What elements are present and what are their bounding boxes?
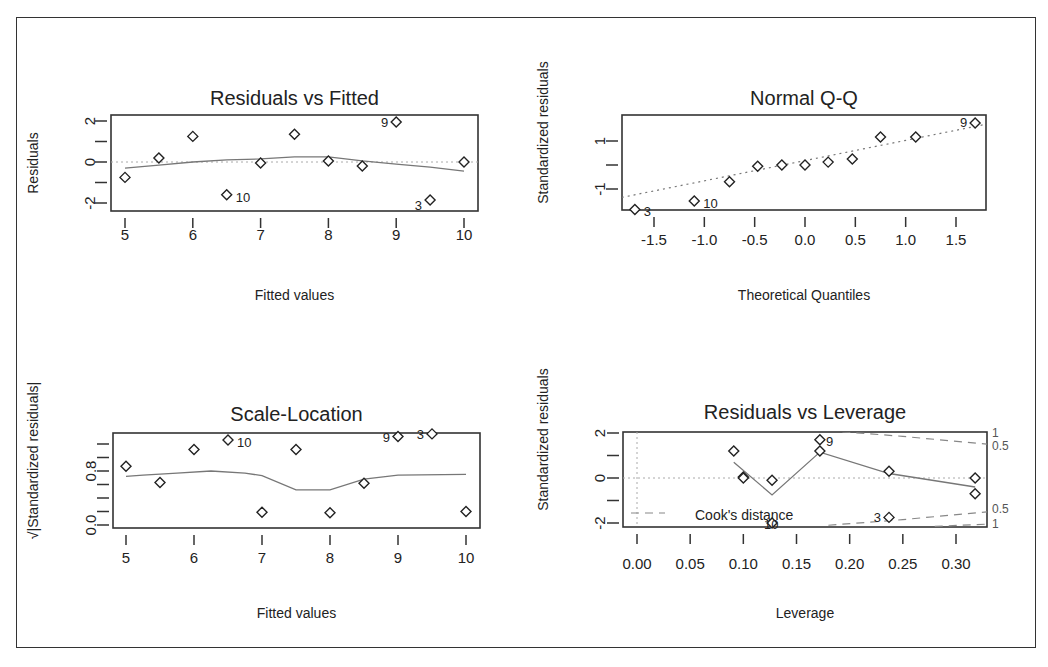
residuals-vs-leverage-panel: Residuals vs LeverageLeverageStandardize… [535,368,1009,621]
y-axis-label: √|Standardized residuals| [25,382,41,539]
data-point [223,435,233,445]
data-points: 1093 [121,427,471,518]
cooks-contour-label: 0.5 [992,439,1009,453]
data-point [357,161,367,171]
x-tick-label: 1.0 [895,231,916,248]
data-point [155,477,165,487]
data-point [729,446,739,456]
x-tick-label: 10 [456,226,473,243]
point-label: 9 [960,115,967,130]
x-tick-label: 1.5 [946,231,967,248]
y-tick-label: 0.8 [82,461,99,482]
y-tick-label: 0 [81,158,98,166]
normal-qq-panel: Normal Q-QTheoretical QuantilesStandardi… [535,61,986,303]
data-point [425,195,435,205]
smooth-line [125,157,464,171]
x-tick-label: 0.20 [835,555,864,572]
x-tick-label: -0.5 [742,231,768,248]
cooks-contour-label: 1 [992,426,999,440]
x-tick-label: 0.00 [622,555,651,572]
y-axis-label: Standardized residuals [535,368,551,510]
x-tick-label: 8 [324,226,332,243]
x-tick-label: 8 [326,549,334,566]
scale-location-panel: Scale-LocationFitted values√|Standardize… [25,382,480,621]
data-point [189,444,199,454]
data-point [290,129,300,139]
x-tick-label: 0.25 [888,555,917,572]
point-label: 3 [415,198,422,213]
cooks-distance-contour [828,512,988,526]
point-label: 10 [703,196,717,211]
data-point [884,466,894,476]
y-axis: -11 [591,137,618,196]
chart-title: Normal Q-Q [750,87,858,109]
y-tick-label: 2 [591,429,608,437]
point-label: 10 [237,435,251,450]
x-tick-label: 0.30 [941,555,970,572]
point-label: 10 [764,517,778,532]
x-tick-label: 0.5 [845,231,866,248]
x-tick-label: 0.10 [729,555,758,572]
y-tick-label: 0.0 [82,515,99,536]
y-tick-label: 0 [591,474,608,482]
x-tick-label: 7 [256,226,264,243]
y-tick-label: -2 [591,516,608,529]
y-tick-label: 2 [81,117,98,125]
data-point [121,461,131,471]
legend-label: Cook's distance [695,507,794,523]
plot-area [623,432,987,527]
point-label: 9 [826,434,833,449]
data-point [120,172,130,182]
x-tick-label: 9 [392,226,400,243]
data-point [291,444,301,454]
point-label: 9 [381,115,388,130]
x-tick-label: 0.05 [676,555,705,572]
x-tick-label: 5 [121,226,129,243]
y-tick-label: -2 [81,196,98,209]
x-axis-label: Fitted values [257,605,336,621]
cooks-contour-label: 1 [992,517,999,531]
data-point [767,475,777,485]
data-point [427,429,437,439]
x-axis-label: Leverage [776,605,835,621]
point-label: 3 [874,510,881,525]
data-point [154,153,164,163]
y-tick-label: -1 [591,182,608,195]
x-tick-label: -1.5 [641,231,667,248]
cooks-contour-label: 0.5 [992,502,1009,516]
data-points: 3109 [630,115,980,219]
y-axis: -202 [81,117,107,210]
data-point [461,507,471,517]
data-point [970,489,980,499]
x-tick-label: -1.0 [691,231,717,248]
data-point [391,117,401,127]
diagnostic-plots: Residuals vs FittedFitted valuesResidual… [0,0,1048,667]
data-point [823,157,833,167]
residuals-vs-fitted-panel: Residuals vs FittedFitted valuesResidual… [25,87,478,303]
x-axis: 0.000.050.100.150.200.250.30 [622,534,970,572]
cooks-distance-contour [935,524,988,526]
y-tick-label: 1 [591,137,608,145]
x-axis: 5678910 [122,535,475,566]
y-axis: -202 [591,429,619,530]
data-point [876,132,886,142]
point-label: 3 [644,204,651,219]
x-tick-label: 9 [394,549,402,566]
data-point [257,507,267,517]
data-point [188,131,198,141]
x-tick-label: 5 [122,549,130,566]
data-point [630,204,640,214]
y-axis: 0.00.8 [82,444,109,535]
point-label: 10 [236,190,250,205]
chart-title: Residuals vs Fitted [210,87,379,109]
chart-title: Residuals vs Leverage [704,401,906,423]
x-axis: 5678910 [121,218,473,243]
data-point [459,157,469,167]
data-point [325,508,335,518]
data-point [222,190,232,200]
x-axis-label: Theoretical Quantiles [738,287,870,303]
point-label: 9 [383,430,390,445]
data-point [725,177,735,187]
point-label: 3 [417,427,424,442]
data-point [777,160,787,170]
